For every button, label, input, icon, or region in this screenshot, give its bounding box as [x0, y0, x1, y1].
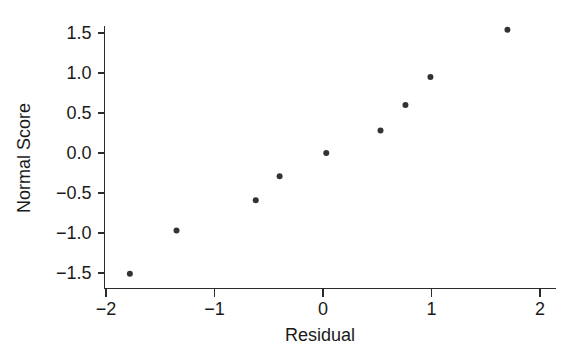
y-tick-label: 1.5	[66, 23, 91, 43]
data-point	[402, 102, 408, 108]
y-tick-label: −1.0	[56, 223, 92, 243]
data-point	[277, 173, 283, 179]
data-point	[253, 197, 259, 203]
data-point	[323, 150, 329, 156]
data-point	[378, 128, 384, 134]
y-tick-label: −0.5	[56, 183, 92, 203]
y-tick-label: 0.0	[66, 143, 91, 163]
y-tick-label: −1.5	[56, 263, 92, 283]
data-point	[127, 271, 133, 277]
x-axis-ticks: −2−1012	[96, 289, 545, 320]
x-axis-title: Residual	[285, 325, 355, 345]
data-point	[174, 228, 180, 234]
plot-canvas: −1.5−1.0−0.50.00.51.01.5 −2−1012 Residua…	[0, 0, 574, 358]
x-tick-label: 1	[426, 299, 436, 319]
normal-probability-plot: −1.5−1.0−0.50.00.51.01.5 −2−1012 Residua…	[0, 0, 574, 358]
y-tick-label: 1.0	[66, 63, 91, 83]
x-tick-label: 0	[318, 299, 328, 319]
y-axis-ticks: −1.5−1.0−0.50.00.51.01.5	[56, 23, 105, 283]
scatter-points	[127, 27, 511, 277]
x-tick-label: −2	[96, 299, 117, 319]
data-point	[427, 74, 433, 80]
data-point	[504, 27, 510, 33]
y-axis-title: Normal Score	[14, 103, 34, 213]
x-tick-label: −1	[204, 299, 225, 319]
y-tick-label: 0.5	[66, 103, 91, 123]
x-tick-label: 2	[535, 299, 545, 319]
